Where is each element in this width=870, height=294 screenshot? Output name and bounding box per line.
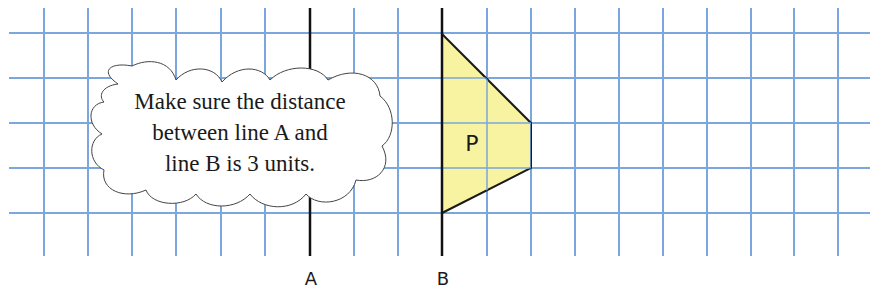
callout-line-2: between line A and <box>98 117 382 148</box>
callout-line-3: line B is 3 units. <box>98 148 382 179</box>
thought-cloud-text: Make sure the distance between line A an… <box>98 86 382 179</box>
line-b-label: B <box>437 268 449 289</box>
callout-line-1: Make sure the distance <box>98 86 382 117</box>
grid-diagram: Make sure the distance between line A an… <box>0 0 870 294</box>
line-a-label: A <box>305 268 317 289</box>
shape-p-label: P <box>465 131 478 156</box>
